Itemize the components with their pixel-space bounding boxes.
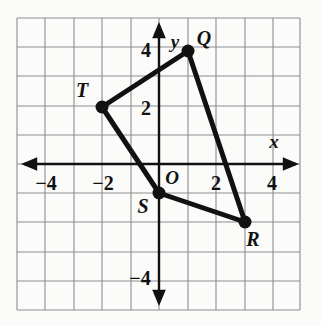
point-r-marker bbox=[239, 216, 252, 229]
point-label-q: Q bbox=[197, 27, 211, 49]
coordinate-plane-svg: x y −4 −2 2 4 4 2 −4 O Q T S R bbox=[0, 0, 321, 326]
x-tick-label-neg4: −4 bbox=[35, 172, 56, 194]
x-tick-label-pos4: 4 bbox=[267, 172, 277, 194]
point-s-marker bbox=[153, 187, 166, 200]
y-tick-label-neg4: −4 bbox=[129, 267, 150, 289]
y-tick-label-pos2: 2 bbox=[141, 97, 151, 119]
point-label-r: R bbox=[245, 228, 259, 250]
point-label-s: S bbox=[137, 195, 148, 217]
x-tick-label-pos2: 2 bbox=[211, 172, 221, 194]
point-t-marker bbox=[96, 101, 109, 114]
x-tick-label-neg2: −2 bbox=[92, 172, 113, 194]
x-axis-label: x bbox=[268, 131, 279, 152]
y-axis-label: y bbox=[169, 31, 180, 52]
point-q-marker bbox=[182, 45, 195, 58]
origin-label: O bbox=[165, 167, 179, 188]
point-label-t: T bbox=[76, 79, 89, 101]
coordinate-plane-figure: x y −4 −2 2 4 4 2 −4 O Q T S R bbox=[0, 0, 321, 326]
y-tick-label-pos4: 4 bbox=[141, 39, 151, 61]
